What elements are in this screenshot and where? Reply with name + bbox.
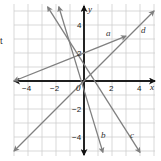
line-c — [94, 80, 140, 153]
y-tick-label: −2 — [72, 105, 82, 114]
line-c — [48, 7, 94, 80]
x-tick-label: −2 — [50, 84, 60, 93]
x-tick-label: 2 — [109, 84, 114, 93]
origin-label: 0 — [76, 83, 81, 93]
coordinate-plane: −4−22442−2−4 x y 0 a b c d — [0, 0, 161, 161]
x-tick-label: 4 — [137, 84, 142, 93]
y-tick-label: 2 — [77, 49, 82, 58]
y-tick-label: −4 — [72, 133, 82, 142]
line-b-label: b — [101, 130, 106, 140]
line-a-label: a — [106, 28, 111, 38]
line-c-label: c — [130, 130, 134, 140]
line-d-label: d — [141, 25, 146, 35]
y-tick-label: 4 — [77, 21, 82, 30]
x-axis-label: x — [149, 82, 154, 92]
line-d — [84, 11, 154, 81]
x-tick-label: −4 — [22, 84, 32, 93]
y-axis-label: y — [87, 4, 92, 14]
